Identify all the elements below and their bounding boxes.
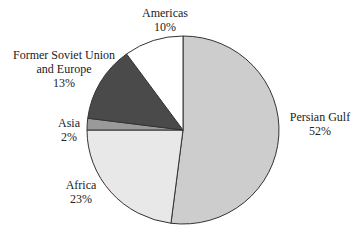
label-fsu-name-line1: Former Soviet Union: [8, 48, 120, 62]
label-fsu-name-line2: and Europe: [8, 62, 120, 76]
label-africa: Africa 23%: [56, 178, 106, 206]
label-persian-gulf-name: Persian Gulf: [284, 110, 356, 124]
label-africa-pct: 23%: [56, 192, 106, 206]
label-americas-pct: 10%: [130, 20, 200, 34]
label-persian-gulf: Persian Gulf 52%: [284, 110, 356, 138]
label-africa-name: Africa: [56, 178, 106, 192]
label-asia: Asia 2%: [52, 116, 86, 144]
label-persian-gulf-pct: 52%: [284, 124, 356, 138]
label-fsu: Former Soviet Union and Europe 13%: [8, 48, 120, 90]
label-asia-pct: 2%: [52, 130, 86, 144]
label-asia-name: Asia: [52, 116, 86, 130]
label-americas-name: Americas: [130, 6, 200, 20]
label-americas: Americas 10%: [130, 6, 200, 34]
pie-slice-persian-gulf: [171, 36, 279, 224]
pie-slice-africa: [87, 130, 183, 223]
label-fsu-pct: 13%: [8, 76, 120, 90]
